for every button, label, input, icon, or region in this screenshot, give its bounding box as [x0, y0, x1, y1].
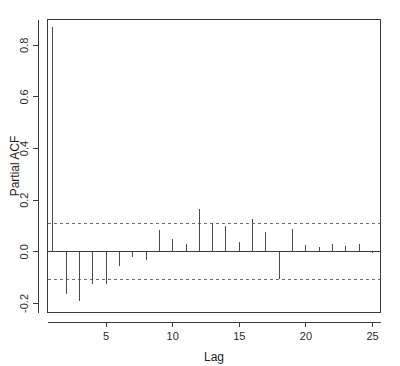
x-tick-label-20: 20	[300, 330, 312, 342]
x-tick-label-25: 25	[366, 330, 378, 342]
pacf-plot-container: 510152025 -0.20.00.20.40.60.8 Lag Partia…	[0, 0, 400, 366]
y-tick-label--0.2: -0.2	[18, 294, 30, 313]
x-axis: 510152025	[48, 322, 381, 342]
x-tick-label-15: 15	[233, 330, 245, 342]
plot-panel-border	[48, 20, 381, 313]
y-tick-label-0: 0.0	[18, 244, 30, 259]
y-tick-label-0.6: 0.6	[18, 89, 30, 104]
acf-stems	[53, 27, 373, 301]
x-tick-label-10: 10	[167, 330, 179, 342]
x-axis-title: Lag	[204, 350, 224, 364]
panel-rectangle	[48, 20, 381, 313]
y-axis-title: Partial ACF	[8, 136, 22, 197]
y-tick-label-0.8: 0.8	[18, 38, 30, 53]
pacf-plot-svg: 510152025 -0.20.00.20.40.60.8 Lag Partia…	[0, 0, 400, 366]
x-tick-label-5: 5	[103, 330, 109, 342]
